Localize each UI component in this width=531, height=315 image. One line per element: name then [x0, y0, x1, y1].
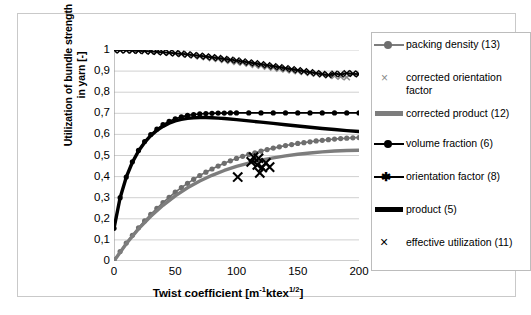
- legend-marker-cross-icon: ×: [372, 236, 406, 250]
- legend-item[interactable]: ×corrected orientation factor: [372, 71, 530, 96]
- legend-item[interactable]: volume fraction (6): [372, 137, 530, 151]
- x-axis-title-sup1: -1: [259, 285, 266, 294]
- data-point: [203, 170, 208, 175]
- legend-item[interactable]: corrected product (12): [372, 107, 530, 121]
- data-point: [356, 135, 359, 140]
- data-point: [332, 110, 337, 115]
- data-point: [191, 177, 196, 182]
- data-point: [283, 110, 288, 115]
- legend-item-label: effective utilization (11): [406, 236, 524, 249]
- data-point: [246, 110, 251, 115]
- x-tick-label: 100: [217, 264, 257, 278]
- data-point: [209, 111, 214, 116]
- data-point: [307, 139, 312, 144]
- legend-marker-cross-icon: ×: [372, 71, 406, 85]
- y-tick-label: 0,6: [94, 127, 110, 140]
- chart-frame: Utilization of bundle strength in yarn […: [17, 13, 516, 297]
- legend-item-label: corrected orientation factor: [406, 71, 524, 96]
- data-point: [203, 111, 208, 116]
- series-corrected-orientation-factor: [114, 50, 359, 80]
- data-point: [234, 156, 239, 161]
- x-axis-title-main: Twist coefficient [m: [153, 287, 260, 299]
- data-point: [228, 158, 233, 163]
- data-point: [216, 110, 221, 115]
- data-point: [216, 163, 221, 168]
- data-point: [350, 135, 355, 140]
- data-point: [295, 110, 300, 115]
- chart-screenshot: Utilization of bundle strength in yarn […: [0, 0, 531, 315]
- data-point: [258, 110, 263, 115]
- series-line: [114, 150, 359, 261]
- data-point: [240, 154, 245, 159]
- data-point: [320, 110, 325, 115]
- x-axis-title-sup2: 1/2: [289, 285, 299, 294]
- data-point: [344, 110, 349, 115]
- x-axis-title: Twist coefficient [m-1ktex1/2]: [78, 285, 378, 299]
- y-tick-label: 1: [104, 43, 110, 56]
- data-point: [295, 141, 300, 146]
- plot-svg: [114, 50, 359, 261]
- legend-item[interactable]: packing density (13): [372, 38, 530, 52]
- y-axis-title-line1: Utilization of bundle strength: [62, 0, 75, 195]
- y-tick-label: 0,1: [94, 233, 110, 246]
- data-point: [283, 143, 288, 148]
- legend-item[interactable]: ×effective utilization (11): [372, 236, 530, 250]
- y-tick-label: 0,7: [94, 106, 110, 119]
- y-tick-label: 0,2: [94, 212, 110, 225]
- y-axis-tick-labels: 00,10,20,30,40,50,60,70,80,91: [76, 43, 110, 268]
- x-tick-label: 0: [94, 264, 134, 278]
- data-point: [265, 147, 270, 152]
- data-point: [209, 166, 214, 171]
- data-point: [197, 173, 202, 178]
- legend-item-label: orientation factor (8): [406, 170, 500, 183]
- data-point: [307, 110, 312, 115]
- legend-marker-line-circle-icon: [372, 38, 406, 52]
- data-point: [301, 140, 306, 145]
- y-tick-label: 0,9: [94, 64, 110, 77]
- chart-legend: packing density (13)×corrected orientati…: [371, 32, 531, 271]
- data-point: [314, 138, 319, 143]
- data-point: [338, 136, 343, 141]
- series-corrected-product-12-: [114, 150, 359, 261]
- data-point: [326, 137, 331, 142]
- data-point: [356, 110, 359, 115]
- data-point: [222, 161, 227, 166]
- data-point: [197, 111, 202, 116]
- data-point: [320, 138, 325, 143]
- data-point: [258, 148, 263, 153]
- data-point: [234, 110, 239, 115]
- legend-item[interactable]: product (5): [372, 203, 530, 217]
- legend-marker-thick-line-icon: [372, 107, 406, 121]
- y-tick-label: 0,4: [94, 170, 110, 183]
- data-point: [271, 146, 276, 151]
- data-point: [222, 110, 227, 115]
- legend-item[interactable]: ✱orientation factor (8): [372, 170, 530, 184]
- y-tick-label: 0,5: [94, 149, 110, 162]
- legend-item-label: product (5): [406, 203, 457, 216]
- data-point: [271, 110, 276, 115]
- y-tick-label: 0,3: [94, 191, 110, 204]
- x-axis-tick-labels: 050100150200: [78, 264, 408, 280]
- legend-item-label: volume fraction (6): [406, 137, 493, 150]
- legend-marker-line-circle-icon: [372, 137, 406, 151]
- x-tick-label: 150: [278, 264, 318, 278]
- y-tick-label: 0,8: [94, 85, 110, 98]
- data-point: [344, 136, 349, 141]
- legend-item-label: packing density (13): [406, 38, 500, 51]
- series-orientation-factor-8-: [114, 50, 359, 78]
- legend-marker-thick-line-icon: [372, 203, 406, 217]
- plot-area: [114, 50, 359, 261]
- legend-marker-line-star-icon: ✱: [372, 170, 406, 184]
- x-axis-title-end: ]: [299, 287, 303, 299]
- x-axis-title-mid: ktex: [266, 287, 289, 299]
- data-point: [228, 110, 233, 115]
- legend-item-label: corrected product (12): [406, 107, 509, 120]
- data-point: [277, 144, 282, 149]
- data-point: [289, 142, 294, 147]
- data-point: [332, 136, 337, 141]
- x-tick-label: 50: [155, 264, 195, 278]
